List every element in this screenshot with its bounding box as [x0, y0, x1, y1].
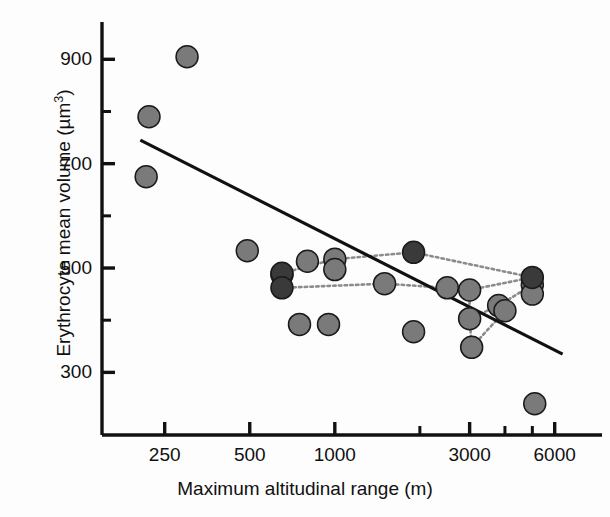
x-axis-title: Maximum altitudinal range (m) [0, 478, 610, 500]
x-tick-label-3000: 3000 [448, 444, 490, 466]
data-point [461, 336, 483, 358]
regression-line [140, 140, 562, 354]
data-point [459, 279, 481, 301]
y-axis-title-main: Erythrocyte mean volume (µm [53, 103, 74, 357]
data-point [271, 277, 293, 299]
data-point [318, 313, 340, 335]
data-point [403, 321, 425, 343]
y-axis-title-tail: ) [53, 89, 74, 95]
data-point [236, 240, 258, 262]
data-point [324, 259, 346, 281]
data-point [176, 46, 198, 68]
data-points [135, 46, 546, 415]
y-axis-title: Erythrocyte mean volume (µm3) [53, 13, 75, 433]
x-tick-label-1000: 1000 [314, 444, 356, 466]
data-point [403, 241, 425, 263]
data-point [521, 266, 543, 288]
data-point [296, 250, 318, 272]
data-point [138, 106, 160, 128]
data-point [374, 273, 396, 295]
data-point [524, 393, 546, 415]
data-point [135, 166, 157, 188]
data-point [494, 300, 516, 322]
data-point [436, 277, 458, 299]
data-point [459, 308, 481, 330]
y-axis-title-exponent: 3 [52, 96, 66, 103]
data-point [289, 313, 311, 335]
x-tick-label-250: 250 [149, 444, 181, 466]
x-tick-label-6000: 6000 [534, 444, 576, 466]
axes [102, 22, 602, 435]
x-tick-label-500: 500 [234, 444, 266, 466]
scatter-plot-figure: 900700500300 250500100030006000 Erythroc… [0, 0, 610, 517]
